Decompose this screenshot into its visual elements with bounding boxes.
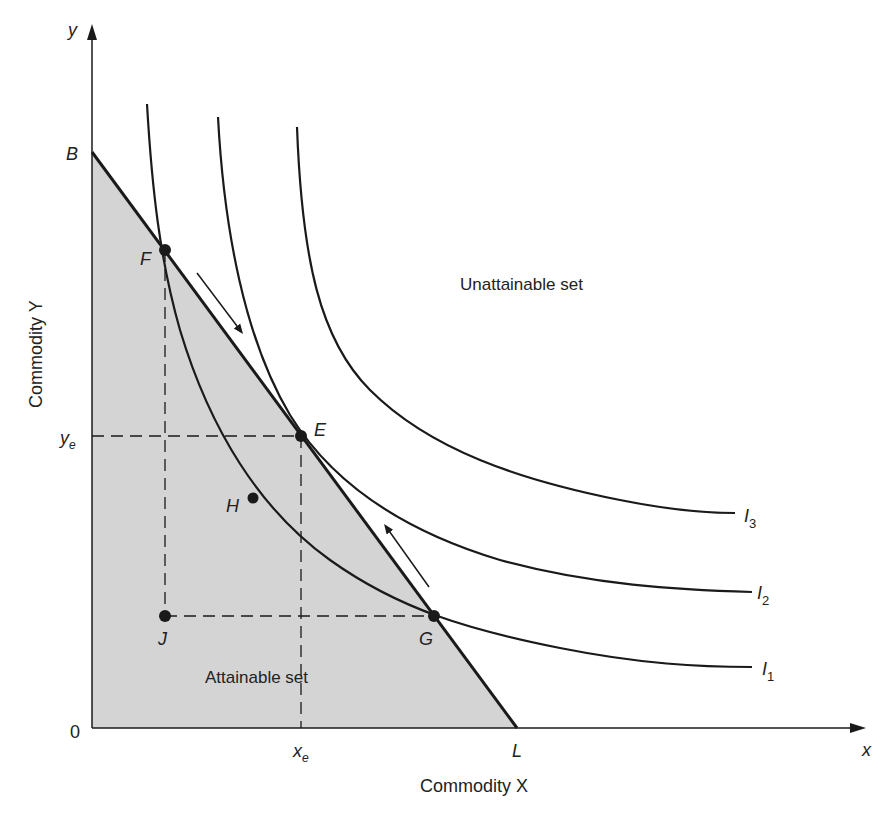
unattainable-set-label: Unattainable set xyxy=(460,275,583,294)
x-axis-title: Commodity X xyxy=(420,776,528,796)
budget-indifference-diagram: y x 0 B F E H G J L xe ye I3 I2 I1 Attai… xyxy=(0,0,892,815)
point-H xyxy=(248,493,259,504)
point-G xyxy=(428,610,440,622)
label-E: E xyxy=(314,420,327,440)
x-axis-arrow-icon xyxy=(850,723,866,733)
origin-label: 0 xyxy=(70,722,80,742)
y-axis-title: Commodity Y xyxy=(26,300,46,408)
label-L: L xyxy=(512,741,522,761)
x-axis-label: x xyxy=(861,740,872,760)
y-axis-label: y xyxy=(66,20,78,40)
label-J: J xyxy=(157,629,168,649)
label-I2: I2 xyxy=(757,583,769,608)
indifference-curve-I3 xyxy=(297,127,735,513)
y-axis-arrow-icon xyxy=(87,24,97,40)
label-F: F xyxy=(140,249,152,269)
point-F xyxy=(159,244,171,256)
label-I1: I1 xyxy=(762,659,774,684)
label-H: H xyxy=(226,496,240,516)
point-J xyxy=(159,610,171,622)
point-E xyxy=(295,430,307,442)
tick-x-e: xe xyxy=(292,741,309,765)
tick-y-e: ye xyxy=(58,428,76,452)
attainable-set-label: Attainable set xyxy=(205,668,308,687)
label-I3: I3 xyxy=(744,506,756,531)
label-B: B xyxy=(66,144,78,164)
label-G: G xyxy=(419,629,433,649)
